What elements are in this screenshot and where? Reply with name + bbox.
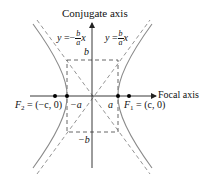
asymptote-positive-label: y =bax	[105, 30, 128, 47]
focus-f1-point	[127, 94, 131, 98]
label-b-bottom: −b	[78, 135, 90, 145]
vertex-left-point	[65, 94, 69, 98]
label-a-right: a	[108, 100, 113, 110]
label-a-left: −a	[70, 100, 82, 110]
focus-f2-label: F2 = (−c, 0)	[15, 100, 62, 113]
conjugate-axis-label: Conjugate axis	[62, 8, 128, 18]
label-b-top: b	[84, 47, 89, 57]
asymptote-negative-label: y =−bax	[57, 30, 86, 47]
focus-f2-point	[53, 94, 57, 98]
vertex-right-point	[116, 94, 120, 98]
focus-f1-label: F1 = (c, 0)	[124, 100, 165, 113]
